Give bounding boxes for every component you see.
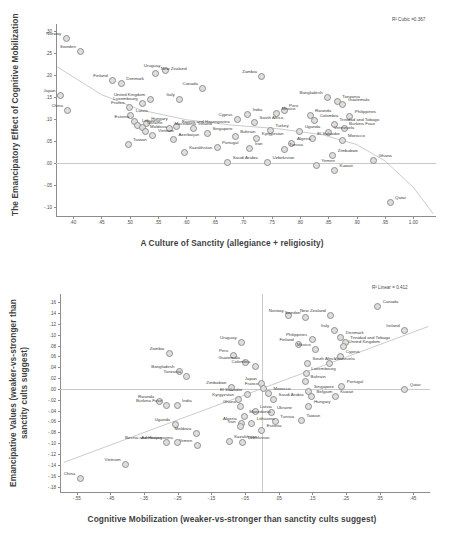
scatter-point[interactable] [296,128,303,135]
scatter-point[interactable] [224,159,231,166]
scatter-point[interactable] [244,111,251,118]
scatter-point[interactable] [264,159,271,166]
scatter-point[interactable] [331,167,338,174]
scatter-point[interactable] [258,73,265,80]
scatter-point[interactable] [125,141,132,148]
y-axis-tick [58,443,60,444]
scatter-point-label: Cyprus [219,111,233,116]
scatter-point[interactable] [251,119,258,126]
y-axis-tick-label: -.14 [38,462,56,467]
scatter-point[interactable] [237,403,244,410]
scatter-point[interactable] [313,162,320,169]
scatter-point-label: Zambia [242,69,257,74]
scatter-point[interactable] [304,360,311,367]
scatter-point[interactable] [252,363,259,370]
x-axis-tick [300,217,301,219]
scatter-point[interactable] [324,94,331,101]
scatter-point[interactable] [312,346,319,353]
x-axis-tick-label: .25 [343,496,349,501]
scatter-point[interactable] [214,144,221,151]
scatter-panel-top: The Emancipatory Effect of Cognitive Mob… [0,0,464,272]
scatter-point[interactable] [401,327,408,334]
scatter-point[interactable] [152,70,159,77]
scatter-point[interactable] [281,146,288,153]
scatter-point[interactable] [298,417,305,424]
scatter-point[interactable] [226,438,233,445]
scatter-point[interactable] [77,475,84,482]
scatter-point[interactable] [302,378,309,385]
scatter-point-label: Belgium [317,389,333,394]
scatter-point[interactable] [122,461,129,468]
scatter-point[interactable] [374,303,381,310]
x-axis-tick-label: .60 [183,220,189,225]
scatter-point[interactable] [339,101,346,108]
y-axis-tick-label: -.10 [34,205,52,210]
x-axis-tick-label: .05 [275,496,281,501]
x-axis-tick-label: -.05 [241,496,249,501]
scatter-point[interactable] [147,96,154,103]
x-axis-tick [144,493,145,495]
scatter-point[interactable] [244,391,251,398]
scatter-point[interactable] [332,393,339,400]
x-axis-tick-label: .40 [70,220,76,225]
scatter-point[interactable] [183,373,190,380]
scatter-point[interactable] [193,430,200,437]
y-axis-tick [58,432,60,433]
scatter-point[interactable] [166,350,173,357]
scatter-point[interactable] [258,427,265,434]
y-axis-tick-label: .06 [38,354,56,359]
scatter-point[interactable] [163,439,170,446]
scatter-point[interactable] [139,100,146,107]
scatter-point[interactable] [327,312,334,319]
y-axis-tick [58,465,60,466]
scatter-point[interactable] [270,396,277,403]
x-axis-tick [158,217,159,219]
scatter-point[interactable] [194,442,201,449]
y-axis-tick [58,389,60,390]
scatter-point[interactable] [234,116,241,123]
scatter-point[interactable] [174,402,181,409]
scatter-point-label: Kuwait [340,389,353,394]
scatter-point[interactable] [401,386,408,393]
scatter-point[interactable] [248,420,255,427]
y-axis-tick [54,163,56,164]
scatter-point[interactable] [199,85,206,92]
x-axis-tick [73,217,74,219]
scatter-point-label: Finland [279,337,293,342]
scatter-point[interactable] [149,132,156,139]
scatter-point[interactable] [63,35,70,42]
scatter-point[interactable] [77,48,84,55]
scatter-point[interactable] [174,439,181,446]
scatter-point[interactable] [302,314,309,321]
scatter-point[interactable] [181,149,188,156]
x-axis-tick-label: .70 [240,220,246,225]
scatter-point[interactable] [163,402,170,409]
scatter-point[interactable] [142,128,149,135]
scatter-point[interactable] [305,403,312,410]
x-axis-tick-label: .75 [268,220,274,225]
figure-page: The Emancipatory Effect of Cognitive Mob… [0,0,464,545]
scatter-point-label: Kuwait [339,162,352,167]
scatter-point[interactable] [339,137,346,144]
scatter-point-label: Japan [245,376,257,381]
y-axis-tick-label: -.10 [38,441,56,446]
scatter-point[interactable] [246,145,253,152]
scatter-point[interactable] [387,199,394,206]
scatter-point[interactable] [204,130,211,137]
scatter-point[interactable] [303,370,310,377]
scatter-point-label: Philippines [355,109,376,114]
scatter-point[interactable] [239,439,246,446]
scatter-point[interactable] [176,96,183,103]
scatter-point[interactable] [57,92,64,99]
scatter-point-label: Lithuania [257,416,275,421]
scatter-point[interactable] [109,77,116,84]
scatter-point[interactable] [237,423,244,430]
scatter-point[interactable] [118,80,125,87]
scatter-point[interactable] [64,107,71,114]
scatter-point[interactable] [126,104,133,111]
scatter-point[interactable] [238,339,245,346]
scatter-point[interactable] [370,157,377,164]
scatter-point[interactable] [331,327,338,334]
y-axis-tick-label: .08 [38,343,56,348]
scatter-point[interactable] [170,136,177,143]
